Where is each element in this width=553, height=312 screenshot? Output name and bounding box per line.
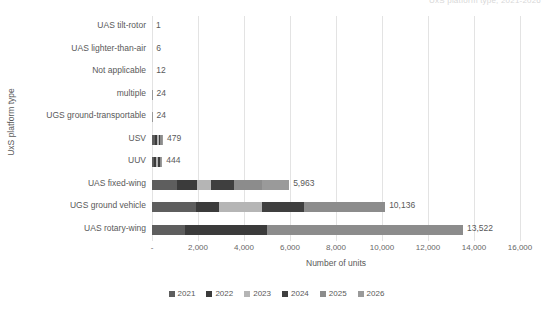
- category-label: USV: [129, 133, 146, 143]
- stacked-bar[interactable]: [152, 157, 162, 167]
- bar-segment-2026[interactable]: [262, 180, 289, 190]
- x-axis-title: Number of units: [152, 258, 520, 268]
- bar-value-label: 5,963: [293, 178, 314, 188]
- legend-item-2023[interactable]: 2023: [244, 289, 271, 298]
- category-label: UGS ground-transportable: [46, 110, 146, 120]
- x-axis-tick-label: 10,000: [370, 243, 394, 252]
- x-axis-tick-label: -: [151, 243, 154, 252]
- legend-swatch-icon: [244, 291, 250, 297]
- chart-bar-row: Not applicable12: [152, 61, 520, 84]
- chart-bar-row: UAS rotary-wing13,522: [152, 219, 520, 242]
- plot-area: UAS tilt-rotor1UAS lighter-than-air6Not …: [152, 16, 520, 241]
- x-axis-tick-label: 16,000: [508, 243, 532, 252]
- bar-segment-2021[interactable]: [152, 225, 185, 235]
- chart-bar-row: UAS fixed-wing5,963: [152, 174, 520, 197]
- gridline: [520, 16, 521, 241]
- legend-item-2021[interactable]: 2021: [169, 289, 196, 298]
- x-axis-tick-label: 8,000: [326, 243, 346, 252]
- legend-swatch-icon: [282, 291, 288, 297]
- chart-bar-row: USV479: [152, 129, 520, 152]
- bar-segment-2024[interactable]: [262, 202, 303, 212]
- category-label: UAS lighter-than-air: [71, 43, 146, 53]
- chart-container: UxS platform type, 2021-2026 UxS platfor…: [0, 0, 553, 312]
- category-label: Not applicable: [92, 65, 146, 75]
- legend-item-2022[interactable]: 2022: [206, 289, 233, 298]
- stacked-bar[interactable]: [152, 225, 463, 235]
- bar-value-label: 24: [157, 88, 166, 98]
- x-axis-tick-label: 6,000: [280, 243, 300, 252]
- bar-value-label: 24: [157, 110, 166, 120]
- x-axis-tick-label: 12,000: [416, 243, 440, 252]
- bar-value-label: 444: [166, 155, 180, 165]
- category-label: UAS tilt-rotor: [97, 20, 146, 30]
- bar-segment-2025[interactable]: [304, 202, 385, 212]
- category-label: multiple: [117, 88, 146, 98]
- category-label: UUV: [128, 155, 146, 165]
- legend-label: 2024: [291, 289, 309, 298]
- legend-label: 2026: [367, 289, 385, 298]
- y-axis-title-label: UxS platform type: [6, 62, 16, 182]
- bar-segment-2023[interactable]: [219, 202, 263, 212]
- bar-segment-2022[interactable]: [185, 225, 267, 235]
- bar-segment-2026[interactable]: [162, 135, 163, 145]
- bar-value-label: 12: [156, 65, 165, 75]
- x-axis-tick-label: 2,000: [188, 243, 208, 252]
- stacked-bar[interactable]: [152, 202, 385, 212]
- x-axis-tick-label: 14,000: [462, 243, 486, 252]
- legend-item-2025[interactable]: 2025: [320, 289, 347, 298]
- chart-bar-row: UUV444: [152, 151, 520, 174]
- bar-segment-2025[interactable]: [267, 225, 463, 235]
- bar-value-label: 10,136: [389, 200, 415, 210]
- chart-bar-row: UAS lighter-than-air6: [152, 39, 520, 62]
- legend-swatch-icon: [169, 291, 175, 297]
- legend-label: 2021: [178, 289, 196, 298]
- x-axis-tick-label: 4,000: [234, 243, 254, 252]
- legend-swatch-icon: [206, 291, 212, 297]
- legend-item-2026[interactable]: 2026: [358, 289, 385, 298]
- stacked-bar[interactable]: [152, 180, 289, 190]
- category-label: UAS rotary-wing: [84, 223, 146, 233]
- bar-segment-2021[interactable]: [152, 180, 177, 190]
- category-label: UGS ground vehicle: [70, 200, 146, 210]
- bar-segment-2023[interactable]: [197, 180, 211, 190]
- category-label: UAS fixed-wing: [88, 178, 146, 188]
- chart-legend: 202120222023202420252026: [0, 289, 553, 298]
- bar-segment-2026[interactable]: [161, 157, 162, 167]
- bar-segment-2025[interactable]: [234, 180, 263, 190]
- bar-segment-2022[interactable]: [177, 180, 197, 190]
- bar-segment-2024[interactable]: [211, 180, 234, 190]
- x-axis-ticks: -2,0004,0006,0008,00010,00012,00014,0001…: [152, 243, 520, 255]
- bar-segment-2022[interactable]: [196, 202, 219, 212]
- chart-bar-row: UGS ground vehicle10,136: [152, 196, 520, 219]
- legend-label: 2022: [215, 289, 233, 298]
- legend-label: 2023: [253, 289, 271, 298]
- legend-item-2024[interactable]: 2024: [282, 289, 309, 298]
- stacked-bar[interactable]: [152, 90, 153, 100]
- bar-value-label: 1: [156, 20, 161, 30]
- clipped-title-fragment: UxS platform type, 2021-2026: [0, 0, 553, 6]
- y-axis-title: UxS platform type: [6, 0, 18, 62]
- bar-value-label: 13,522: [467, 223, 493, 233]
- stacked-bar[interactable]: [152, 135, 163, 145]
- chart-bar-row: UAS tilt-rotor1: [152, 16, 520, 39]
- bar-value-label: 479: [167, 133, 181, 143]
- legend-swatch-icon: [320, 291, 326, 297]
- legend-label: 2025: [329, 289, 347, 298]
- chart-bar-row: multiple24: [152, 84, 520, 107]
- bar-value-label: 6: [156, 43, 161, 53]
- stacked-bar[interactable]: [152, 112, 153, 122]
- legend-swatch-icon: [358, 291, 364, 297]
- bar-segment-2021[interactable]: [152, 202, 196, 212]
- chart-bar-row: UGS ground-transportable24: [152, 106, 520, 129]
